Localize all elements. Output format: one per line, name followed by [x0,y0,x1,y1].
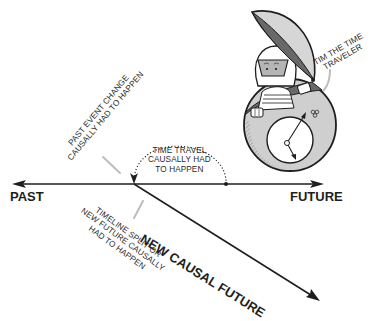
clock-dial [267,117,313,163]
departure-point-icon [224,182,228,186]
main-timeline [12,180,324,188]
tim-time-traveler-illustration [244,11,336,171]
visor [258,60,288,76]
branch-arrowhead-icon [306,289,320,301]
future-label: FUTURE [290,190,343,205]
time-travel-annotation: TIME TRAVEL CAUSALLY HAD TO HAPPEN [148,146,211,174]
arc-arrowhead-icon [130,173,138,184]
past-label: PAST [10,190,44,205]
